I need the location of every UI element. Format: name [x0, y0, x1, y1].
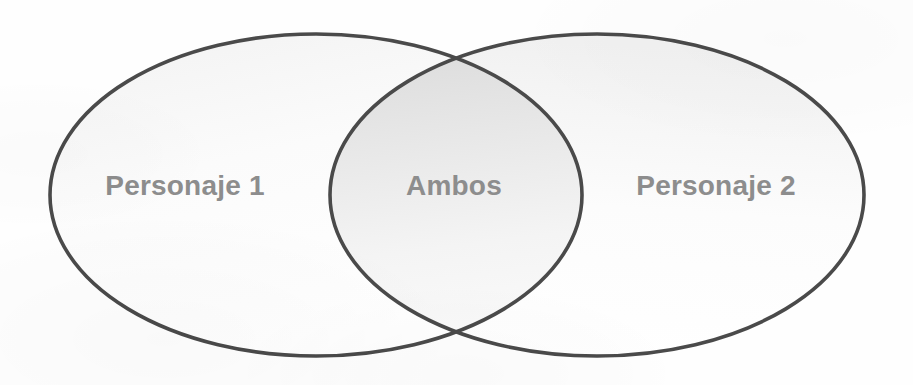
- set-right-label: Personaje 2: [636, 170, 795, 201]
- venn-diagram-canvas: Personaje 1 Ambos Personaje 2: [0, 0, 913, 385]
- set-left-label: Personaje 1: [105, 170, 264, 201]
- venn-diagram-svg: Personaje 1 Ambos Personaje 2: [0, 0, 913, 385]
- intersection-label: Ambos: [406, 170, 502, 201]
